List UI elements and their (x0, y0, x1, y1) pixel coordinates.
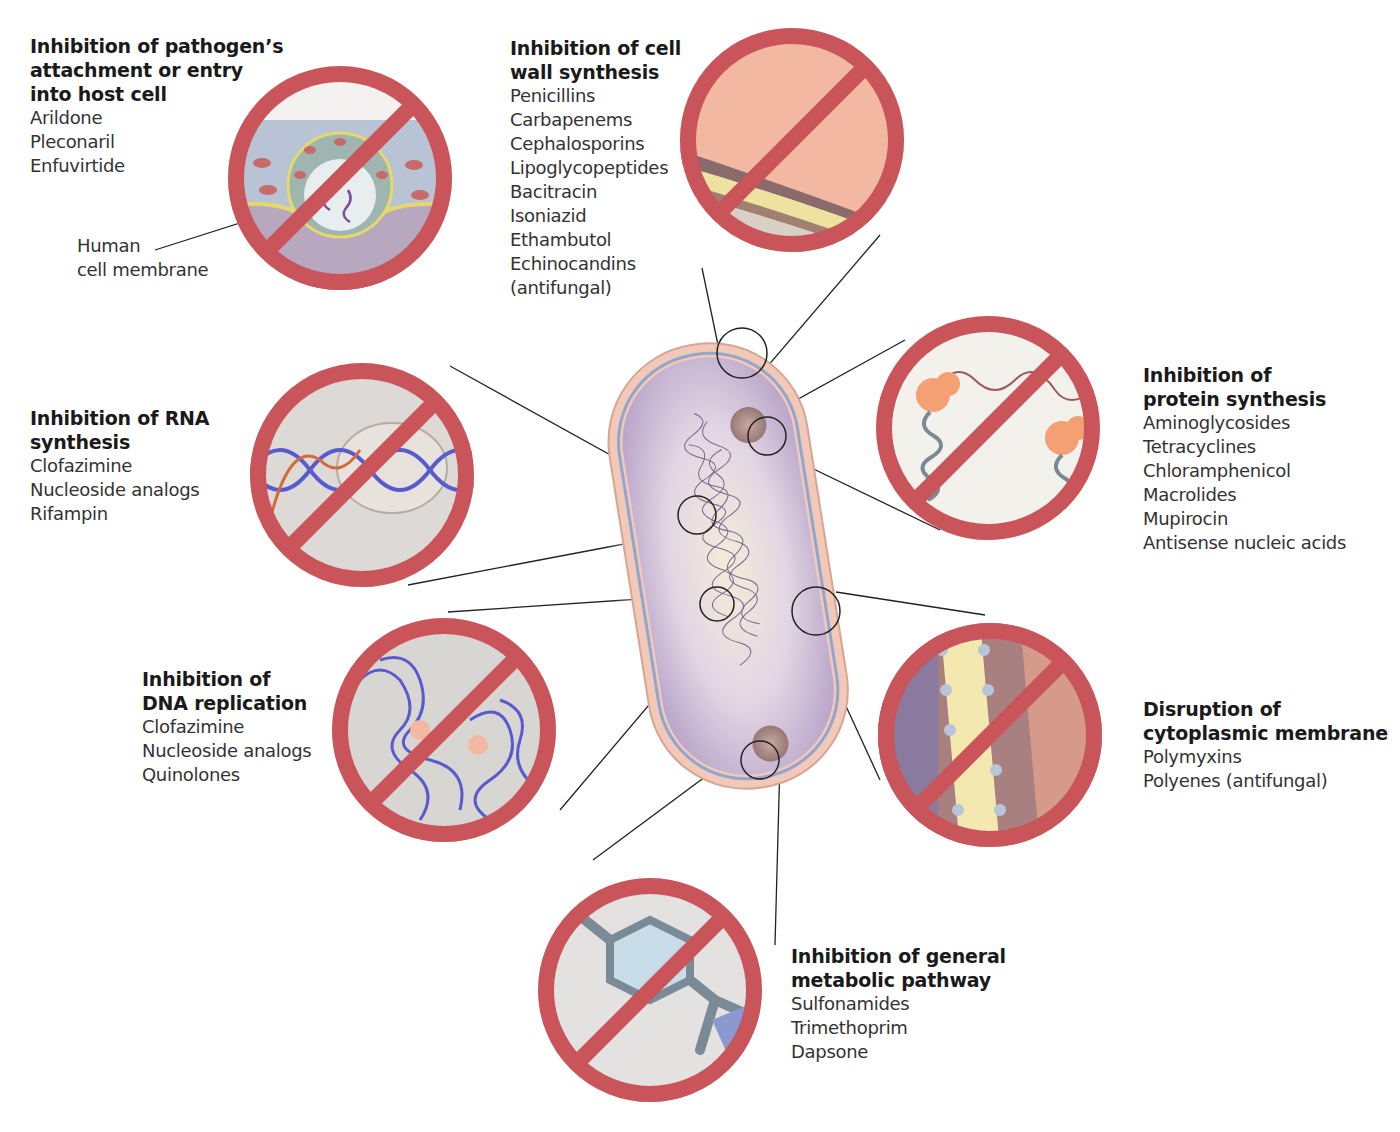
drug-list: Arildone Pleconaril Enfuvirtide (30, 106, 283, 178)
drug-item: Macrolides (1143, 483, 1346, 507)
mechanism-title: Inhibition of general metabolic pathway (791, 944, 1006, 992)
label-dna-replication-inhibition: Inhibition of DNA replication Clofazimin… (142, 667, 311, 787)
mechanism-title: Inhibition of DNA replication (142, 667, 311, 715)
drug-item: Chloramphenicol (1143, 459, 1346, 483)
dna-replication-inhibition-illustration (332, 618, 556, 842)
mechanism-title: Inhibition of cell wall synthesis (510, 36, 681, 84)
drug-item: Quinolones (142, 763, 311, 787)
drug-list: Polymyxins Polyenes (antifungal) (1143, 745, 1388, 793)
drug-item: Polymyxins (1143, 745, 1388, 769)
label-cytoplasmic-membrane-disruption: Disruption of cytoplasmic membrane Polym… (1143, 697, 1388, 793)
drug-item: Clofazimine (30, 454, 209, 478)
drug-item: Antisense nucleic acids (1143, 531, 1346, 555)
drug-item: Sulfonamides (791, 992, 1006, 1016)
drug-list: Clofazimine Nucleoside analogs Rifampin (30, 454, 209, 526)
drug-item: Trimethoprim (791, 1016, 1006, 1040)
drug-item: Arildone (30, 106, 283, 130)
label-attachment-inhibition: Inhibition of pathogen’s attachment or e… (30, 34, 283, 178)
mechanism-title: Inhibition of RNA synthesis (30, 406, 209, 454)
drug-item: Penicillins (510, 84, 681, 108)
drug-list: Clofazimine Nucleoside analogs Quinolone… (142, 715, 311, 787)
rna-synthesis-inhibition-illustration (250, 363, 490, 587)
drug-item: Carbapenems (510, 108, 681, 132)
connector-lines (155, 215, 985, 945)
label-metabolic-pathway-inhibition: Inhibition of general metabolic pathway … (791, 944, 1006, 1064)
drug-list: Aminoglycosides Tetracyclines Chloramphe… (1143, 411, 1346, 555)
mechanism-title: Disruption of cytoplasmic membrane (1143, 697, 1388, 745)
drug-item: Polyenes (antifungal) (1143, 769, 1388, 793)
drug-item: Tetracyclines (1143, 435, 1346, 459)
metabolic-pathway-inhibition-illustration (538, 878, 765, 1102)
mechanism-title: Inhibition of pathogen’s attachment or e… (30, 34, 283, 106)
mechanism-title: Inhibition of protein synthesis (1143, 363, 1346, 411)
drug-item: Bacitracin (510, 180, 681, 204)
label-protein-synthesis-inhibition: Inhibition of protein synthesis Aminogly… (1143, 363, 1346, 555)
protein-synthesis-inhibition-illustration (876, 316, 1100, 540)
drug-item: Nucleoside analogs (142, 739, 311, 763)
label-cell-wall-inhibition: Inhibition of cell wall synthesis Penici… (510, 36, 681, 300)
callout-human-cell-membrane: Human cell membrane (77, 234, 208, 282)
label-rna-synthesis-inhibition: Inhibition of RNA synthesis Clofazimine … (30, 406, 209, 526)
drug-list: Sulfonamides Trimethoprim Dapsone (791, 992, 1006, 1064)
drug-item: Clofazimine (142, 715, 311, 739)
drug-item: Pleconaril (30, 130, 283, 154)
drug-item: Enfuvirtide (30, 154, 283, 178)
drug-item: Echinocandins (510, 252, 681, 276)
drug-item: (antifungal) (510, 276, 681, 300)
drug-item: Cephalosporins (510, 132, 681, 156)
drug-item: Lipoglycopeptides (510, 156, 681, 180)
drug-item: Isoniazid (510, 204, 681, 228)
drug-item: Ethambutol (510, 228, 681, 252)
drug-item: Dapsone (791, 1040, 1006, 1064)
drug-item: Nucleoside analogs (30, 478, 209, 502)
drug-item: Aminoglycosides (1143, 411, 1346, 435)
drug-item: Rifampin (30, 502, 209, 526)
cytoplasmic-membrane-illustration (878, 620, 1108, 850)
drug-item: Mupirocin (1143, 507, 1346, 531)
drug-list: Penicillins Carbapenems Cephalosporins L… (510, 84, 681, 300)
cell-wall-inhibition-illustration (680, 28, 905, 300)
